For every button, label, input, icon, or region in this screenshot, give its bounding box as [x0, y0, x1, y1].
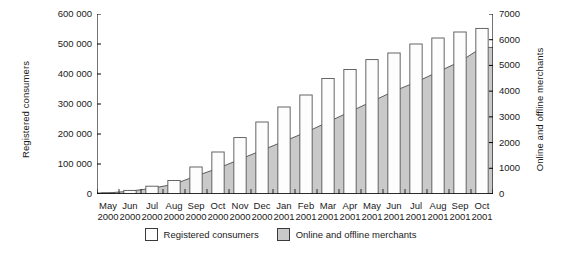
y-axis-left-tick-label: 300 000 [40, 99, 92, 109]
legend-item-online-offline-merchants: Online and offline merchants [277, 228, 417, 241]
consumers-bar [190, 167, 202, 194]
y-axis-left-tick-label: 600 000 [40, 9, 92, 19]
consumers-bar [454, 32, 466, 194]
chart-figure: Registered consumers Online and offline … [0, 0, 561, 261]
legend-label-registered-consumers: Registered consumers [164, 229, 259, 240]
y-axis-right-tick-label: 7000 [499, 9, 551, 19]
y-axis-left-tick-label: 200 000 [40, 129, 92, 139]
x-axis-tick-label: Oct2001 [465, 200, 499, 222]
consumers-bar [344, 70, 356, 195]
y-axis-left-title: Registered consumers [20, 30, 31, 190]
consumers-bar [388, 53, 400, 194]
y-axis-left-tick-label: 400 000 [40, 69, 92, 79]
y-axis-right-tick-label: 6000 [499, 35, 551, 45]
consumers-bar [322, 79, 334, 195]
plot-area [97, 14, 493, 194]
legend-item-registered-consumers: Registered consumers [145, 228, 259, 241]
y-axis-right-tick-label: 4000 [499, 86, 551, 96]
consumers-bar [432, 38, 444, 194]
consumers-bar [476, 28, 488, 194]
consumers-bar [146, 186, 158, 194]
consumers-bar [234, 138, 246, 194]
y-axis-left-tick-label: 500 000 [40, 39, 92, 49]
chart-legend: Registered consumers Online and offline … [0, 228, 561, 241]
y-axis-right-tick-label: 1000 [499, 163, 551, 173]
plot-svg [97, 14, 493, 194]
consumers-bar [366, 60, 378, 194]
consumers-bar [410, 44, 422, 194]
y-axis-right-tick-label: 3000 [499, 112, 551, 122]
consumers-bar [300, 95, 312, 194]
consumers-bar [212, 152, 224, 194]
y-axis-left-tick-label: 0 [40, 189, 92, 199]
consumers-bar [278, 107, 290, 194]
x-axis-tick-month: Oct [465, 200, 499, 211]
y-axis-right-tick-label: 5000 [499, 60, 551, 70]
white-square-icon [145, 228, 158, 241]
y-axis-left-tick-label: 100 000 [40, 159, 92, 169]
y-axis-right-tick-label: 2000 [499, 138, 551, 148]
x-axis-tick-year: 2001 [465, 211, 499, 222]
y-axis-right-tick-label: 0 [499, 189, 551, 199]
consumers-bar [168, 181, 180, 195]
legend-label-online-offline-merchants: Online and offline merchants [296, 229, 417, 240]
gray-square-icon [277, 228, 290, 241]
consumers-bar [256, 122, 268, 194]
